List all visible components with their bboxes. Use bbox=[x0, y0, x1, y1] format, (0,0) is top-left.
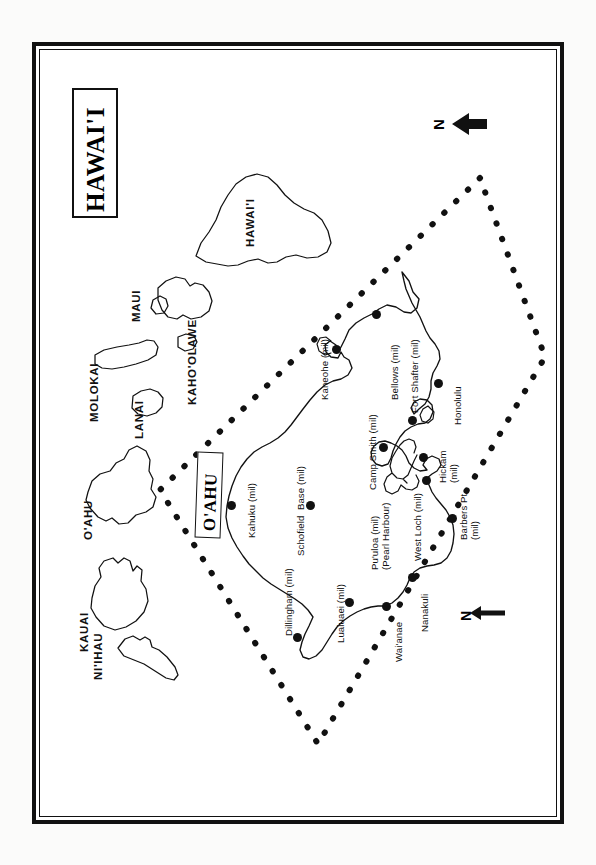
label-hickam-line2: (mil) bbox=[449, 464, 460, 483]
marker-waianae[interactable] bbox=[382, 602, 391, 611]
label-bellows: Bellows (mil) bbox=[390, 344, 401, 400]
label-lualuaei: Lualuaei (mil) bbox=[336, 584, 347, 643]
label-puuloa: Pu'uloa (mil) bbox=[370, 516, 381, 570]
island-label-oahu-overview: O'AHU bbox=[82, 500, 94, 540]
label-schofield: Schofield Base (mil) bbox=[296, 466, 307, 556]
marker-barbers-pt[interactable] bbox=[448, 514, 457, 523]
label-fort-shafter: Fort Shafter (mil) bbox=[410, 339, 421, 413]
island-label-niihau: NI'IHAU bbox=[92, 633, 104, 680]
map-page: HAWAI'I NI'IHAU KAUAI O'AHU MOLOKAI bbox=[0, 0, 596, 865]
inset-title: O'AHU bbox=[200, 473, 222, 531]
marker-camp-smith[interactable] bbox=[379, 443, 388, 452]
marker-kahuku[interactable] bbox=[227, 501, 236, 510]
island-label-kahoolawe: KAHO'OLAWE bbox=[186, 319, 198, 405]
map-title-box: HAWAI'I bbox=[72, 88, 118, 218]
marker-nanakuli[interactable] bbox=[408, 573, 417, 582]
marker-fort-shafter[interactable] bbox=[408, 416, 417, 425]
label-waianae: Wai'anae bbox=[394, 622, 405, 662]
marker-kaneohe[interactable] bbox=[332, 345, 341, 354]
label-west-loch: West Loch (mil) bbox=[413, 493, 424, 561]
island-label-molokai: MOLOKAI bbox=[88, 363, 100, 422]
label-dillingham: Dillingham (mil) bbox=[284, 568, 295, 636]
island-label-lanai: LANAI bbox=[133, 400, 145, 439]
inset-title-box: O'AHU bbox=[195, 452, 224, 539]
label-kahuku: Kahuku (mil) bbox=[247, 483, 258, 538]
marker-west-loch[interactable] bbox=[422, 476, 431, 485]
marker-bellows[interactable] bbox=[372, 310, 381, 319]
north-label-bottom: N bbox=[458, 611, 474, 621]
label-nanakuli: Nanakuli bbox=[420, 594, 431, 632]
label-honolulu: Honolulu bbox=[453, 386, 464, 425]
label-puuloa-line2: (Pearl Harbour) bbox=[381, 502, 392, 570]
north-label-top: N bbox=[430, 119, 447, 130]
island-label-kauai: KAUAI bbox=[78, 612, 90, 652]
label-kaneohe: Kaneohe (mil) bbox=[320, 339, 331, 400]
label-barbers-pt-line2: (mil) bbox=[470, 521, 481, 540]
label-hickam: Hickam bbox=[438, 450, 449, 483]
marker-hickam[interactable] bbox=[419, 453, 428, 462]
label-barbers-pt: Barbers Pt. bbox=[459, 491, 470, 540]
page-title: HAWAI'I bbox=[82, 107, 110, 212]
marker-dillingham[interactable] bbox=[293, 633, 302, 642]
island-label-maui: MAUI bbox=[130, 290, 142, 322]
marker-lualuaei[interactable] bbox=[345, 598, 354, 607]
marker-honolulu[interactable] bbox=[434, 379, 443, 388]
marker-schofield[interactable] bbox=[306, 501, 315, 510]
island-label-hawaii: HAWAI'I bbox=[244, 198, 256, 247]
label-camp-smith: Camp Smith (mil) bbox=[368, 414, 379, 490]
